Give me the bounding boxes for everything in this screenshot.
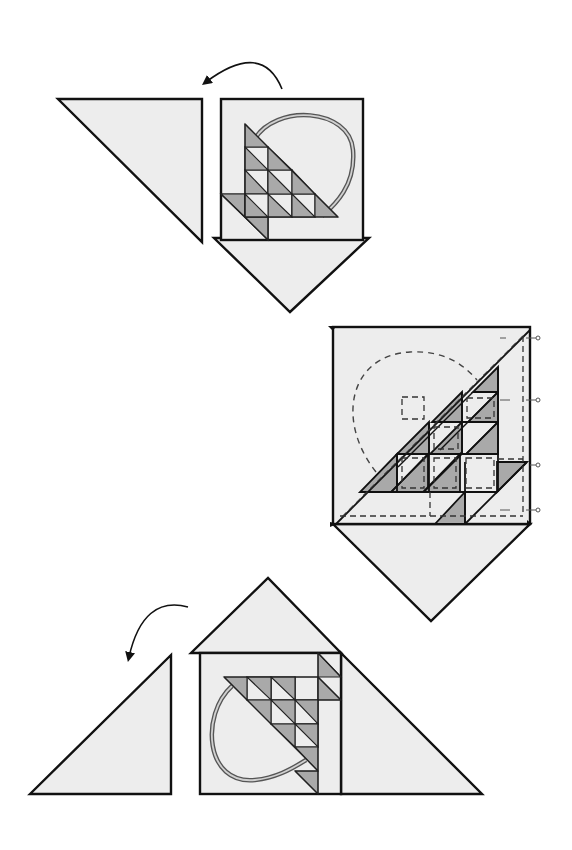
diagram-canvas: [0, 0, 572, 850]
right-setting-triangle: [341, 653, 482, 794]
step-2-middle: [328, 326, 540, 621]
bottom-setting-triangle: [333, 524, 530, 621]
step-1-top: [58, 63, 369, 312]
left-setting-triangle: [58, 99, 202, 242]
quilt-assembly-diagram: [0, 0, 572, 850]
step-3-bottom: [30, 578, 482, 794]
bottom-setting-triangle: [214, 238, 369, 312]
center-block-on-point: [333, 327, 530, 524]
top-setting-triangle: [191, 578, 341, 653]
rotation-arrow-icon: [129, 605, 188, 657]
rotation-arrow-icon: [206, 63, 282, 89]
left-setting-triangle: [30, 655, 171, 794]
